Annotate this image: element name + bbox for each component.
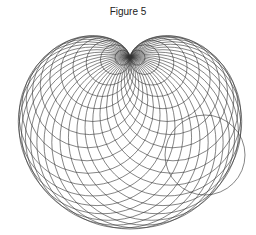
envelope-circles [18,36,245,230]
cardioid-diagram [0,0,256,235]
highlight-circle [165,115,245,195]
